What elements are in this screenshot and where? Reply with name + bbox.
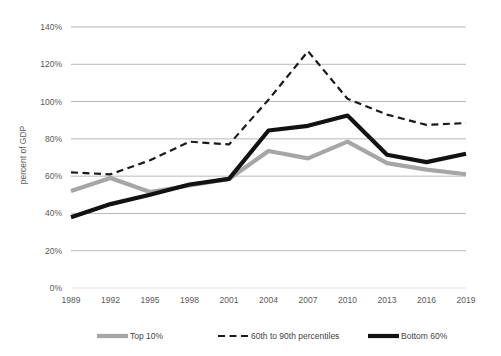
y-tick-label-100: 100% <box>40 97 62 107</box>
x-tick-label-2016: 2016 <box>417 295 436 305</box>
y-axis-title: percent of GDP <box>18 125 28 184</box>
x-tick-label-1998: 1998 <box>180 295 199 305</box>
legend-label-top-10: Top 10% <box>130 331 164 341</box>
y-tick-label-20: 20% <box>45 246 62 256</box>
y-tick-label-60: 60% <box>45 171 62 181</box>
x-tick-label-2007: 2007 <box>299 295 318 305</box>
x-tick-label-1995: 1995 <box>141 295 160 305</box>
legend-label-60th-to-90th-percentiles: 60th to 90th percentiles <box>251 331 339 341</box>
y-tick-label-40: 40% <box>45 208 62 218</box>
x-tick-label-2019: 2019 <box>457 295 476 305</box>
y-tick-label-0: 0% <box>50 283 63 293</box>
x-tick-label-1992: 1992 <box>101 295 120 305</box>
y-tick-label-80: 80% <box>45 134 62 144</box>
x-tick-label-2004: 2004 <box>259 295 278 305</box>
chart-container: 0%20%40%60%80%100%120%140% percent of GD… <box>0 0 501 356</box>
legend-label-bottom-60: Bottom 60% <box>401 331 448 341</box>
x-tick-label-1989: 1989 <box>62 295 81 305</box>
x-tick-label-2001: 2001 <box>220 295 239 305</box>
x-tick-label-2013: 2013 <box>378 295 397 305</box>
x-tick-label-2010: 2010 <box>338 295 357 305</box>
y-tick-label-140: 140% <box>40 22 62 32</box>
y-tick-label-120: 120% <box>40 59 62 69</box>
line-chart: 0%20%40%60%80%100%120%140% percent of GD… <box>0 0 501 356</box>
